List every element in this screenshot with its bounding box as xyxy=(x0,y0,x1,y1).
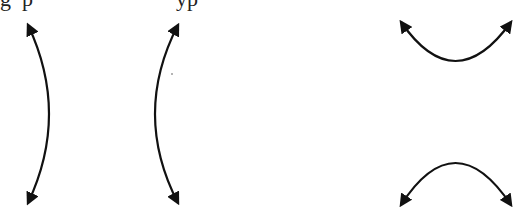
stray-dot xyxy=(171,73,173,75)
upper-branch xyxy=(401,22,511,61)
vertical-hyperbola xyxy=(401,22,511,205)
horizontal-hyperbola xyxy=(28,25,178,203)
right-branch xyxy=(155,25,178,203)
hyperbola-diagram xyxy=(0,0,524,220)
lower-branch xyxy=(401,163,511,205)
left-branch xyxy=(28,25,49,203)
